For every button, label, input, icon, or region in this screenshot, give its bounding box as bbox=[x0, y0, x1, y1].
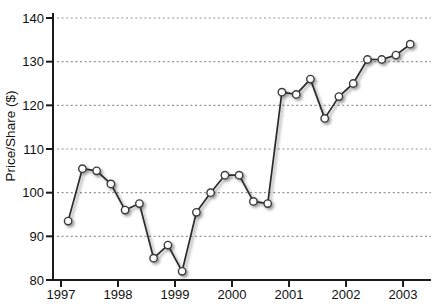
data-point-marker bbox=[335, 93, 342, 100]
data-point-marker bbox=[264, 200, 271, 207]
data-point-marker bbox=[378, 56, 385, 63]
data-point-marker bbox=[64, 217, 71, 224]
y-tick-label: 120 bbox=[22, 98, 44, 113]
data-point-marker bbox=[235, 172, 242, 179]
data-point-marker bbox=[278, 89, 285, 96]
data-point-marker bbox=[293, 91, 300, 98]
data-point-marker bbox=[321, 115, 328, 122]
y-tick-label: 130 bbox=[22, 54, 44, 69]
chart-canvas: 8090100110120130140199719981999200020012… bbox=[0, 0, 435, 306]
data-point-marker bbox=[364, 56, 371, 63]
data-series bbox=[64, 41, 414, 275]
data-point-marker bbox=[307, 75, 314, 82]
data-point-marker bbox=[79, 165, 86, 172]
data-point-marker bbox=[193, 209, 200, 216]
x-tick-label: 1999 bbox=[161, 287, 190, 302]
gridlines bbox=[57, 18, 431, 236]
y-tick-label: 80 bbox=[30, 273, 44, 288]
x-tick-label: 2003 bbox=[389, 287, 418, 302]
data-point-marker bbox=[164, 241, 171, 248]
data-point-marker bbox=[107, 180, 114, 187]
price-line bbox=[68, 44, 410, 271]
data-point-marker bbox=[392, 51, 399, 58]
data-point-marker bbox=[221, 172, 228, 179]
x-tick-label: 2002 bbox=[332, 287, 361, 302]
axes: 8090100110120130140199719981999200020012… bbox=[22, 11, 431, 303]
data-point-marker bbox=[93, 167, 100, 174]
y-tick-label: 100 bbox=[22, 185, 44, 200]
data-point-marker bbox=[350, 80, 357, 87]
price-share-chart: 8090100110120130140199719981999200020012… bbox=[0, 0, 435, 306]
y-tick-label: 110 bbox=[23, 142, 44, 157]
data-point-marker bbox=[136, 200, 143, 207]
y-tick-label: 90 bbox=[30, 229, 44, 244]
y-axis-label: Price/Share ($) bbox=[3, 91, 18, 182]
data-point-marker bbox=[407, 41, 414, 48]
x-tick-label: 2001 bbox=[275, 287, 304, 302]
y-tick-label: 140 bbox=[22, 11, 44, 26]
data-point-marker bbox=[207, 189, 214, 196]
data-point-marker bbox=[121, 206, 128, 213]
data-point-marker bbox=[250, 198, 257, 205]
x-tick-label: 1997 bbox=[47, 287, 76, 302]
data-point-marker bbox=[150, 255, 157, 262]
x-tick-label: 2000 bbox=[218, 287, 247, 302]
x-tick-label: 1998 bbox=[104, 287, 133, 302]
data-point-marker bbox=[178, 268, 185, 275]
